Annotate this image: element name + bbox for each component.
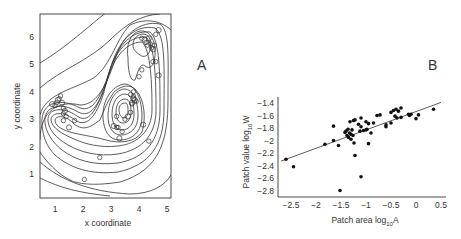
data-point [359, 116, 363, 120]
data-point [284, 157, 288, 161]
data-point [349, 137, 353, 141]
data-point [358, 129, 362, 133]
data-point [365, 127, 369, 131]
y-tick-label: −2 [264, 136, 274, 146]
data-point [353, 118, 357, 122]
data-point [292, 165, 296, 169]
data-point [372, 121, 376, 125]
data-point [332, 124, 336, 128]
data-point [359, 175, 363, 179]
data-point [369, 131, 373, 135]
data-point [399, 116, 403, 120]
data-point [378, 113, 382, 117]
data-point [352, 141, 356, 145]
data-point [399, 106, 403, 110]
data-point [414, 117, 418, 121]
y-axis-label: Patch value log10W [241, 116, 253, 189]
x-tick-label: 0.5 [435, 200, 447, 210]
data-points [284, 106, 435, 192]
data-point [338, 189, 342, 193]
data-point [432, 107, 436, 111]
scatter-plot: −2.5−2−1.5−1−0.500.5 −1.4−1.6−1.8−2−2.2−… [0, 0, 461, 239]
data-point [397, 109, 401, 113]
data-point [367, 142, 371, 146]
y-tick-labels: −1.4−1.6−1.8−2−2.2−2.4−2.6−2.8 [257, 98, 274, 196]
data-point [351, 134, 355, 138]
y-tick-label: −2.8 [257, 186, 274, 196]
y-tick-label: −1.6 [257, 111, 274, 121]
y-tick-label: −1.4 [257, 98, 274, 108]
x-tick-label: −1 [361, 200, 371, 210]
y-tick-label: −1.8 [257, 123, 274, 133]
x-tick-labels: −2.5−2−1.5−1−0.500.5 [283, 200, 448, 210]
data-point [384, 123, 388, 127]
data-point [367, 122, 371, 126]
y-tick-label: −2.2 [257, 148, 274, 158]
data-point [389, 121, 393, 125]
y-tick-label: −2.4 [257, 161, 274, 171]
data-point [332, 139, 336, 143]
x-tick-label: −0.5 [383, 200, 400, 210]
x-tick-label: −1.5 [333, 200, 350, 210]
data-point [353, 154, 357, 158]
data-point [359, 125, 363, 129]
data-point [323, 142, 327, 146]
data-point [348, 120, 352, 124]
data-point [409, 112, 413, 116]
y-tick-label: −2.6 [257, 173, 274, 183]
x-axis-label: Patch area log10A [331, 215, 399, 227]
x-tick-label: 0 [414, 200, 419, 210]
data-point [417, 113, 421, 117]
x-tick-label: −2 [311, 200, 321, 210]
data-point [346, 127, 350, 131]
x-tick-label: −2.5 [283, 200, 300, 210]
data-point [395, 116, 399, 120]
data-point [375, 114, 379, 118]
data-point [337, 144, 341, 148]
data-point [350, 128, 354, 132]
